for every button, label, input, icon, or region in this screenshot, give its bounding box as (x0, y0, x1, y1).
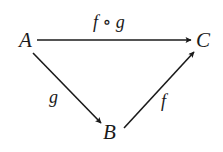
label-g: g (49, 88, 58, 106)
node-b: B (103, 122, 116, 143)
commutative-diagram: A C B f ∘ g g f (0, 0, 223, 152)
arrow-g-a-to-b (33, 53, 101, 123)
node-c: C (196, 30, 210, 51)
label-composite-f-circ-g: f ∘ g (93, 13, 125, 31)
arrow-f-b-to-c (124, 52, 194, 128)
label-f: f (161, 92, 166, 110)
node-a: A (19, 30, 32, 51)
